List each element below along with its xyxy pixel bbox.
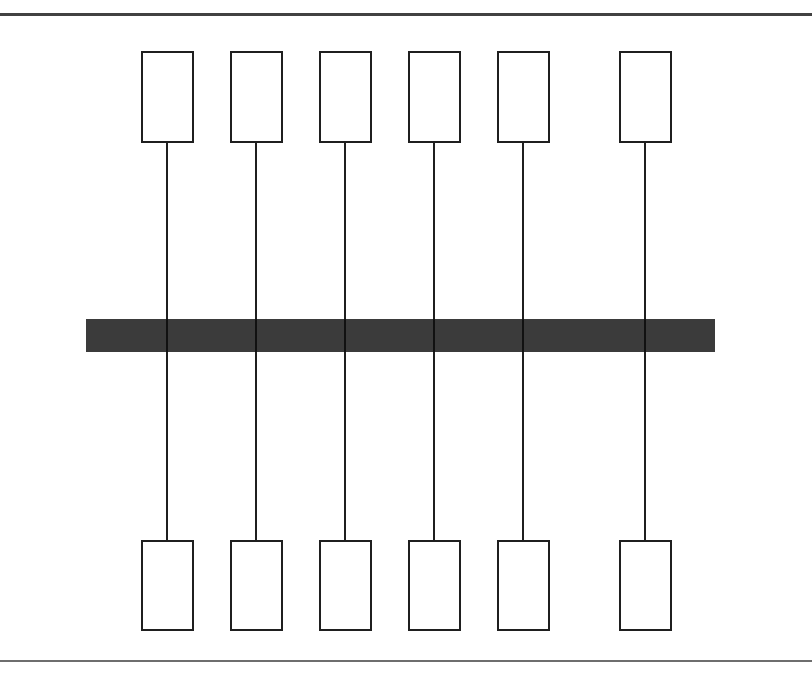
bottom-node-2	[230, 540, 283, 631]
top-node-6	[619, 51, 672, 143]
figure-page	[0, 0, 812, 684]
connector-line-crossing-5	[522, 319, 524, 352]
top-node-1	[141, 51, 194, 143]
top-node-2	[230, 51, 283, 143]
bottom-node-5	[497, 540, 550, 631]
top-node-4	[408, 51, 461, 143]
horizontal-bar	[86, 319, 715, 352]
bottom-node-4	[408, 540, 461, 631]
bottom-node-1	[141, 540, 194, 631]
diagram-canvas	[0, 0, 812, 684]
top-node-3	[319, 51, 372, 143]
bottom-node-6	[619, 540, 672, 631]
bottom-rule	[0, 660, 812, 662]
connector-line-crossing-3	[344, 319, 346, 352]
connector-line-crossing-4	[433, 319, 435, 352]
connector-line-crossing-2	[255, 319, 257, 352]
connector-line-crossing-1	[166, 319, 168, 352]
top-node-5	[497, 51, 550, 143]
bottom-node-3	[319, 540, 372, 631]
connector-line-crossing-6	[644, 319, 646, 352]
